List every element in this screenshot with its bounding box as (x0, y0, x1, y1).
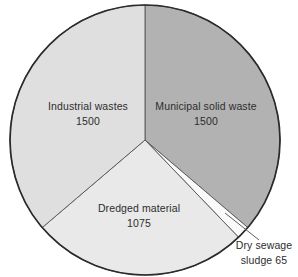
slice-label-dry-sewage-sludge: Dry sewage sludge 65 (228, 238, 298, 267)
slice-label-text: Dry sewage (228, 238, 298, 253)
pie-chart-figure: Industrial wastes 1500 Municipal solid w… (0, 0, 298, 277)
slice-value-text: 1500 (146, 114, 266, 129)
slice-value-text: 1500 (18, 114, 158, 129)
slice-label-municipal-solid-waste: Municipal solid waste 1500 (146, 99, 266, 128)
slice-label-industrial-wastes: Industrial wastes 1500 (18, 99, 158, 128)
slice-value-text: 1075 (79, 216, 199, 231)
slice-label-dredged-material: Dredged material 1075 (79, 201, 199, 230)
slice-label-text: Dredged material (79, 201, 199, 216)
pie-chart (0, 0, 298, 277)
slice-value-text: sludge 65 (228, 253, 298, 268)
slice-label-text: Municipal solid waste (146, 99, 266, 114)
slice-label-text: Industrial wastes (18, 99, 158, 114)
